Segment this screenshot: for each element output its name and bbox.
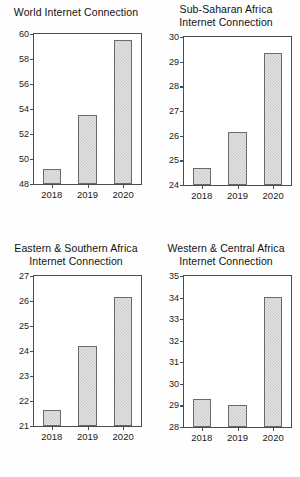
x-axis-tick-mark bbox=[88, 184, 89, 188]
y-axis-tick-label: 35 bbox=[169, 271, 184, 281]
bar-2020 bbox=[264, 53, 283, 185]
bar-series bbox=[184, 276, 291, 427]
plot-area: 21222324252627201820192020 bbox=[0, 239, 150, 477]
x-axis-tick-mark bbox=[273, 185, 274, 189]
chart-panel-western-central-africa: Western & Central Africa Internet Connec… bbox=[150, 239, 300, 477]
bar-2019 bbox=[228, 405, 247, 427]
y-axis-tick-label: 24 bbox=[19, 346, 34, 356]
bar-2020 bbox=[114, 40, 133, 184]
bar-2018 bbox=[193, 168, 212, 185]
y-axis-tick-label: 23 bbox=[19, 371, 34, 381]
bar-2020 bbox=[114, 297, 133, 426]
x-axis-tick-label: 2020 bbox=[263, 190, 284, 201]
x-axis-tick-mark bbox=[52, 426, 53, 430]
chart-panel-eastern-southern-africa: Eastern & Southern Africa Internet Conne… bbox=[0, 239, 150, 477]
x-axis-tick-label: 2019 bbox=[227, 432, 248, 443]
y-axis-tick-label: 27 bbox=[169, 106, 184, 116]
x-axis-tick-label: 2020 bbox=[113, 431, 134, 442]
x-axis-tick-mark bbox=[238, 185, 239, 189]
plot-area: 24252627282930201820192020 bbox=[150, 0, 300, 238]
y-axis-tick-label: 24 bbox=[169, 180, 184, 190]
x-axis-tick-label: 2019 bbox=[77, 431, 98, 442]
y-axis-tick-label: 31 bbox=[169, 357, 184, 367]
x-axis-tick-label: 2020 bbox=[113, 189, 134, 200]
y-axis-tick-label: 54 bbox=[19, 104, 34, 114]
axes-frame: 24252627282930201820192020 bbox=[183, 36, 292, 186]
bar-2018 bbox=[193, 399, 212, 427]
y-axis-tick-label: 56 bbox=[19, 79, 34, 89]
x-axis-tick-mark bbox=[123, 426, 124, 430]
x-axis-tick-mark bbox=[202, 427, 203, 431]
y-axis-tick-label: 27 bbox=[19, 271, 34, 281]
x-axis-tick-label: 2018 bbox=[191, 432, 212, 443]
x-axis-tick-label: 2019 bbox=[227, 190, 248, 201]
bar-series bbox=[184, 37, 291, 185]
x-axis-tick-mark bbox=[52, 184, 53, 188]
figure-bar-chart-grid: World Internet Connection 48505254565860… bbox=[0, 0, 300, 477]
x-axis-tick-label: 2019 bbox=[77, 189, 98, 200]
y-axis-tick-label: 30 bbox=[169, 32, 184, 42]
x-axis-tick-label: 2018 bbox=[41, 189, 62, 200]
bar-2019 bbox=[78, 115, 97, 184]
y-axis-tick-label: 32 bbox=[169, 336, 184, 346]
x-axis-tick-label: 2018 bbox=[41, 431, 62, 442]
plot-area: 2829303132333435201820192020 bbox=[150, 239, 300, 477]
x-axis-tick-mark bbox=[273, 427, 274, 431]
y-axis-tick-label: 33 bbox=[169, 314, 184, 324]
y-axis-tick-label: 30 bbox=[169, 379, 184, 389]
x-axis-tick-mark bbox=[238, 427, 239, 431]
bar-series bbox=[34, 34, 141, 184]
axes-frame: 2829303132333435201820192020 bbox=[183, 275, 292, 428]
y-axis-tick-label: 25 bbox=[169, 155, 184, 165]
chart-panel-sub-saharan-africa: Sub-Saharan Africa Internet Connection 2… bbox=[150, 0, 300, 238]
x-axis-tick-label: 2020 bbox=[263, 432, 284, 443]
bar-2019 bbox=[78, 346, 97, 426]
bar-series bbox=[34, 276, 141, 426]
plot-area: 48505254565860201820192020 bbox=[0, 0, 150, 238]
y-axis-tick-label: 50 bbox=[19, 154, 34, 164]
y-axis-tick-label: 29 bbox=[169, 57, 184, 67]
y-axis-tick-label: 28 bbox=[169, 81, 184, 91]
bar-2020 bbox=[264, 297, 283, 428]
y-axis-tick-label: 26 bbox=[19, 296, 34, 306]
x-axis-tick-label: 2018 bbox=[191, 190, 212, 201]
y-axis-tick-label: 48 bbox=[19, 179, 34, 189]
y-axis-tick-label: 29 bbox=[169, 400, 184, 410]
x-axis-tick-mark bbox=[123, 184, 124, 188]
y-axis-tick-label: 52 bbox=[19, 129, 34, 139]
bar-2019 bbox=[228, 132, 247, 185]
y-axis-tick-label: 26 bbox=[169, 131, 184, 141]
bar-2018 bbox=[43, 169, 62, 184]
y-axis-tick-label: 22 bbox=[19, 396, 34, 406]
y-axis-tick-label: 21 bbox=[19, 421, 34, 431]
axes-frame: 48505254565860201820192020 bbox=[33, 33, 142, 185]
bar-2018 bbox=[43, 410, 62, 426]
chart-panel-world: World Internet Connection 48505254565860… bbox=[0, 0, 150, 238]
x-axis-tick-mark bbox=[88, 426, 89, 430]
y-axis-tick-label: 34 bbox=[169, 293, 184, 303]
y-axis-tick-label: 58 bbox=[19, 54, 34, 64]
y-axis-tick-label: 25 bbox=[19, 321, 34, 331]
y-axis-tick-label: 60 bbox=[19, 29, 34, 39]
x-axis-tick-mark bbox=[202, 185, 203, 189]
y-axis-tick-label: 28 bbox=[169, 422, 184, 432]
axes-frame: 21222324252627201820192020 bbox=[33, 275, 142, 427]
